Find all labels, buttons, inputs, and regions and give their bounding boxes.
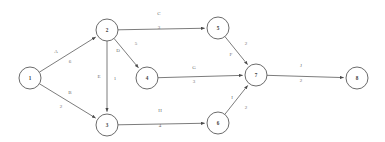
node-label-8: 8 [356, 75, 359, 81]
graph-edge-2-5 [118, 28, 205, 30]
edge-weight-2-4: 5 [135, 41, 138, 46]
edge-weight-1-2: 6 [69, 59, 72, 64]
edge-weight-7-8: 2 [300, 78, 303, 83]
edge-letter-g: G [192, 65, 196, 70]
node-label-4: 4 [146, 75, 149, 81]
graph-edge-3-6 [118, 123, 205, 125]
edge-weight-2-3: 1 [114, 76, 117, 81]
graph-node-4[interactable]: 4 [136, 67, 158, 89]
edge-weight-5-7: 2 [245, 41, 248, 46]
edge-weight-6-7: 2 [245, 105, 248, 110]
edge-letter-d: D [116, 48, 120, 53]
edge-letter-a: A [54, 49, 58, 54]
node-label-5: 5 [217, 25, 220, 31]
graph-node-2[interactable]: 2 [96, 19, 118, 41]
edge-weight-4-7: 3 [193, 79, 196, 84]
edge-letter-f: F [230, 52, 233, 57]
edge-weight-3-6: 4 [159, 123, 162, 128]
edge-letter-i: I [231, 95, 233, 100]
graph-node-8[interactable]: 8 [346, 67, 368, 89]
graph-node-5[interactable]: 5 [207, 17, 229, 39]
edges-layer [39, 28, 343, 125]
edge-letter-h: H [158, 108, 162, 113]
graph-edge-1-2 [39, 37, 95, 72]
graph-edge-6-7 [225, 86, 248, 115]
node-label-7: 7 [255, 72, 258, 78]
edge-letter-c: C [157, 11, 161, 16]
node-label-2: 2 [106, 27, 109, 33]
edge-weight-1-3: 2 [60, 104, 63, 109]
node-label-1: 1 [29, 75, 32, 81]
edge-letter-b: B [68, 90, 72, 95]
graph-edge-4-7 [158, 75, 243, 77]
graph-node-7[interactable]: 7 [245, 64, 267, 86]
network-diagram: A6B2C3D5E1G3H4F2I2J2 12345678 [0, 0, 385, 142]
edge-letter-j: J [300, 63, 302, 68]
node-label-6: 6 [217, 120, 220, 126]
graph-edge-7-8 [267, 75, 344, 77]
graph-node-1[interactable]: 1 [19, 67, 41, 89]
graph-node-3[interactable]: 3 [96, 114, 118, 136]
edge-letter-e: E [97, 74, 100, 79]
graph-node-6[interactable]: 6 [207, 112, 229, 134]
node-label-3: 3 [106, 122, 109, 128]
graph-canvas: A6B2C3D5E1G3H4F2I2J2 12345678 [0, 0, 385, 142]
